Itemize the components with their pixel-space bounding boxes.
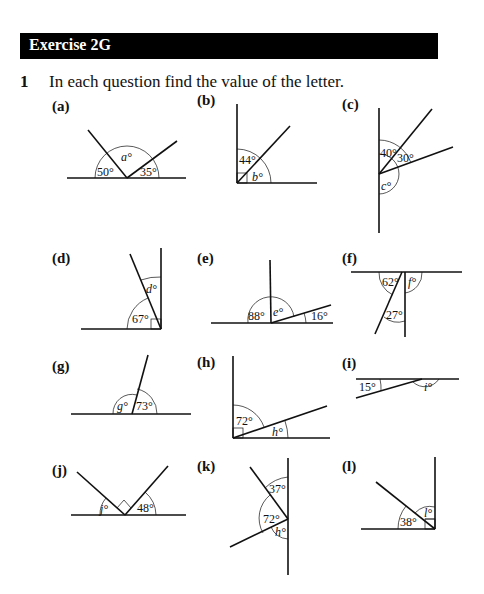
svg-text:37°: 37° bbox=[269, 482, 286, 496]
svg-text:f°: f° bbox=[408, 275, 416, 289]
svg-text:73°: 73° bbox=[136, 399, 153, 413]
svg-text:15°: 15° bbox=[359, 380, 376, 394]
diagram-h: 72° h° bbox=[233, 356, 330, 439]
svg-text:e°: e° bbox=[273, 305, 283, 319]
svg-text:62°: 62° bbox=[382, 275, 399, 289]
diagram-k: 37° 72° h° bbox=[230, 458, 288, 575]
svg-text:d°: d° bbox=[146, 282, 157, 296]
diagram-j: j° 48° bbox=[71, 466, 186, 516]
diagram-d: 67° d° bbox=[81, 248, 161, 329]
diagram-a: 50° a° 35° bbox=[67, 130, 186, 179]
svg-text:b°: b° bbox=[252, 170, 263, 184]
diagram-g: g° 73° bbox=[71, 355, 191, 414]
diagram-b: 44° b° bbox=[237, 104, 317, 184]
svg-text:16°: 16° bbox=[311, 309, 328, 323]
svg-text:88°: 88° bbox=[248, 309, 265, 323]
svg-text:35°: 35° bbox=[140, 165, 157, 179]
diagram-c: 40° 30° c° bbox=[379, 108, 453, 233]
svg-text:g°: g° bbox=[117, 399, 128, 413]
svg-text:c°: c° bbox=[381, 179, 391, 193]
diagram-i: 15° i° bbox=[356, 379, 459, 398]
diagram-l: 38° l° bbox=[361, 457, 435, 529]
svg-text:a°: a° bbox=[121, 150, 132, 164]
svg-text:j°: j° bbox=[98, 502, 108, 516]
diagram-f: 62° f° 27° bbox=[351, 272, 462, 337]
svg-text:30°: 30° bbox=[397, 151, 414, 165]
svg-text:38°: 38° bbox=[400, 515, 417, 529]
svg-text:48°: 48° bbox=[137, 501, 154, 515]
svg-text:27°: 27° bbox=[386, 308, 403, 322]
svg-text:72°: 72° bbox=[263, 512, 280, 526]
svg-text:67°: 67° bbox=[132, 312, 149, 326]
diagram-e: 88° e° 16° bbox=[211, 260, 333, 323]
svg-text:44°: 44° bbox=[239, 153, 256, 167]
svg-text:i°: i° bbox=[424, 380, 432, 394]
svg-text:l°: l° bbox=[424, 506, 432, 520]
angle-label: 50° bbox=[97, 165, 114, 179]
angle-diagrams: 50° a° 35° 44° b° 40° 30° c° 67° d° bbox=[0, 0, 484, 594]
svg-text:40°: 40° bbox=[380, 146, 397, 160]
svg-text:h°: h° bbox=[275, 525, 286, 539]
svg-text:72°: 72° bbox=[236, 414, 253, 428]
svg-text:h°: h° bbox=[272, 425, 283, 439]
